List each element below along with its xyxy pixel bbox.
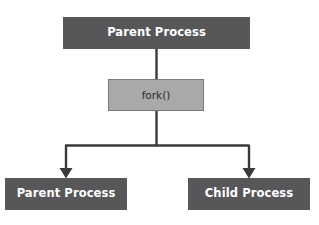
node-parent-process-bottom: Parent Process bbox=[5, 178, 127, 210]
node-child-process-bottom-label: Child Process bbox=[205, 188, 293, 200]
node-parent-process-top-label: Parent Process bbox=[107, 27, 206, 39]
node-parent-process-bottom-label: Parent Process bbox=[17, 188, 116, 200]
node-parent-process-top: Parent Process bbox=[63, 17, 250, 49]
diagram-canvas: Parent Process fork() Parent Process Chi… bbox=[0, 0, 319, 225]
node-fork-call-label: fork() bbox=[142, 90, 171, 101]
node-fork-call: fork() bbox=[108, 79, 204, 111]
arrowhead-to-child-icon bbox=[243, 168, 256, 179]
arrowhead-to-parent-icon bbox=[60, 168, 73, 179]
node-child-process-bottom: Child Process bbox=[188, 178, 310, 210]
